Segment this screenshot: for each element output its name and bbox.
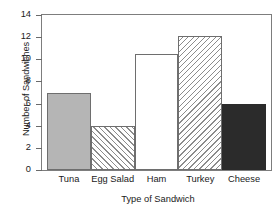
bar-slot	[91, 15, 135, 170]
y-axis-tick-label: 2	[0, 143, 31, 152]
bar-tuna[interactable]	[47, 93, 91, 171]
bar-egg-salad[interactable]	[91, 126, 135, 170]
y-axis-tick	[36, 170, 42, 171]
bar-slot	[47, 15, 91, 170]
y-axis-tick-label: 4	[0, 121, 31, 130]
y-axis-tick-label: 10	[0, 54, 31, 63]
x-axis-title: Type of Sandwich	[38, 194, 278, 204]
y-axis-tick-label: 12	[0, 32, 31, 41]
y-axis-tick-label: 0	[0, 165, 31, 174]
bar-cheese[interactable]	[222, 104, 266, 170]
bar-slot	[222, 15, 266, 170]
bar-chart: Number of Sandwiches 02468101214 TunaEgg…	[0, 0, 280, 212]
bars-group	[42, 15, 271, 170]
bar-slot	[135, 15, 179, 170]
y-axis-tick-label: 6	[0, 99, 31, 108]
x-axis-tick-label: Cheese	[204, 175, 280, 184]
bar-ham[interactable]	[135, 54, 179, 170]
y-axis-tick-label: 8	[0, 76, 31, 85]
bar-turkey[interactable]	[178, 36, 222, 170]
bar-slot	[178, 15, 222, 170]
y-axis-tick-label: 14	[0, 10, 31, 19]
